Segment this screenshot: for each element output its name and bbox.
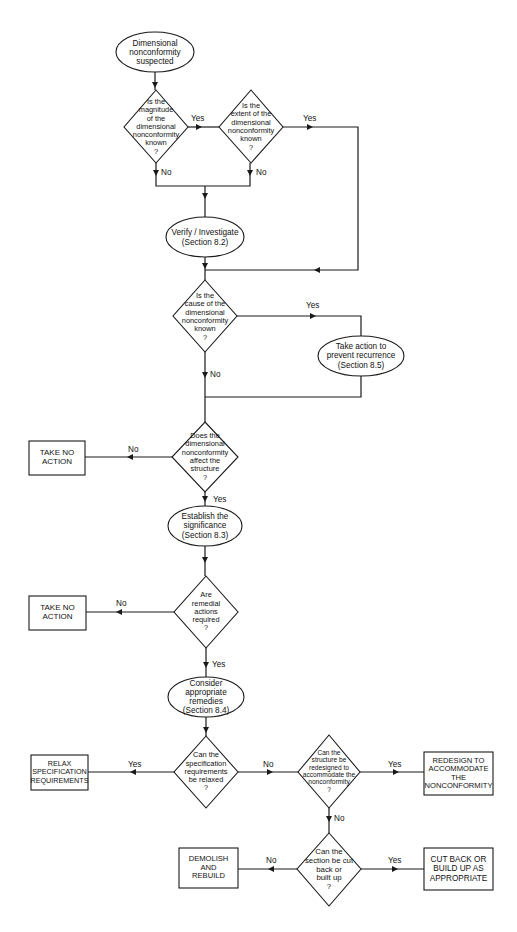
redesign-yes-label: Yes [388, 760, 401, 769]
cause-no-label: No [210, 370, 220, 379]
significance-node: Establish the significance (Section 8.3) [168, 506, 242, 546]
magnitude-no-label: No [161, 168, 171, 177]
verify-node: Verify / Investigate (Section 8.2) [167, 218, 243, 257]
magnitude-question: Is the magnitude of the dimensional nonc… [124, 92, 188, 162]
redesign-question: Can the structure be redesigned to accom… [296, 740, 362, 802]
demolish-action: DEMOLISH AND REBUILD [179, 848, 238, 888]
extent-yes-label: Yes [303, 114, 316, 123]
cause-yes-label: Yes [306, 301, 319, 310]
cutback-no-label: No [266, 856, 276, 865]
relax-question: Can the specification requirements be re… [174, 744, 238, 800]
cutback-action: CUT BACK OR BUILD UP AS APPROPRIATE [424, 848, 493, 890]
extent-no-label: No [256, 168, 266, 177]
prevent-node: Take action to prevent recurrence (Secti… [318, 336, 404, 376]
remedial-yes-label: Yes [212, 660, 225, 669]
remedial-no-label: No [116, 599, 126, 608]
no-action-1: TAKE NO ACTION [29, 441, 85, 475]
cutback-question: Can the section be cut back or built up … [297, 841, 361, 899]
extent-question: Is the extent of the dimensional nonconf… [219, 95, 283, 159]
remedies-node: Consider appropriate remedies (Section 8… [168, 677, 244, 717]
cause-question: Is the cause of the dimensional nonconfo… [173, 285, 237, 349]
start-node: Dimensional nonconformity suspected [117, 33, 193, 72]
redesign-no-label: No [334, 814, 344, 823]
cutback-yes-label: Yes [388, 856, 401, 865]
affect-question: Does the dimensional nonconformity affec… [172, 426, 238, 488]
relax-action: RELAX SPECIFICATION REQUIREMENTS [31, 755, 88, 790]
redesign-action: REDESIGN TO ACCOMMODATE THE NONCONFORMIT… [424, 752, 493, 795]
no-action-2: TAKE NO ACTION [29, 596, 86, 630]
remedial-question: Are remedial actions required ? [174, 585, 238, 639]
magnitude-yes-label: Yes [191, 114, 204, 123]
affect-yes-label: Yes [213, 495, 226, 504]
relax-no-label: No [263, 760, 273, 769]
relax-yes-label: Yes [128, 760, 141, 769]
connectors [85, 72, 424, 869]
affect-no-label: No [128, 445, 138, 454]
